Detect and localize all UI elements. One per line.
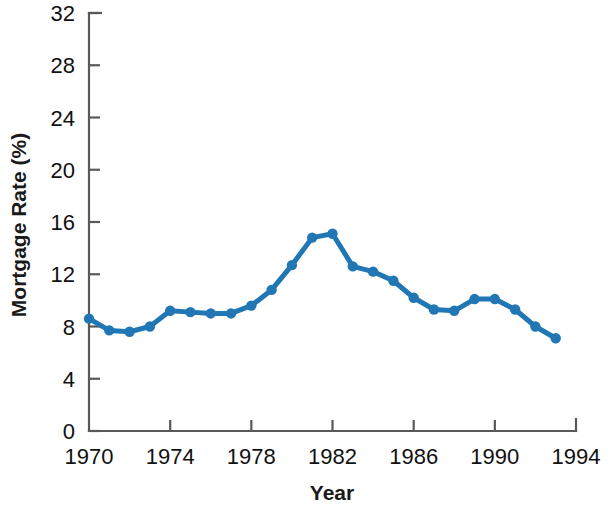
chart-canvas: Mortgage Rate (%) Year 048121620242832 1… <box>0 0 611 514</box>
data-point-marker <box>104 325 114 335</box>
x-tick-label: 1970 <box>65 444 114 469</box>
data-point-marker <box>490 294 500 304</box>
axes <box>89 13 576 431</box>
data-point-marker <box>206 308 216 318</box>
data-point-marker <box>165 306 175 316</box>
x-tick-label: 1982 <box>308 444 357 469</box>
y-tick-label: 32 <box>51 1 75 26</box>
data-point-marker <box>530 321 540 331</box>
mortgage-rate-line-chart: Mortgage Rate (%) Year 048121620242832 1… <box>0 0 611 514</box>
data-point-marker <box>327 229 337 239</box>
data-point-marker <box>429 304 439 314</box>
data-point-marker <box>510 304 520 314</box>
x-tick-label: 1974 <box>146 444 195 469</box>
series-group <box>84 229 561 344</box>
y-tick-label: 0 <box>63 419 75 444</box>
x-axis-label: Year <box>310 481 354 504</box>
y-tick-label: 8 <box>63 315 75 340</box>
series-line-mortgage-rate <box>89 234 556 339</box>
data-point-marker <box>388 276 398 286</box>
data-point-marker <box>287 260 297 270</box>
data-point-marker <box>551 333 561 343</box>
data-point-marker <box>145 321 155 331</box>
data-point-marker <box>185 307 195 317</box>
y-tick-label: 12 <box>51 262 75 287</box>
data-point-marker <box>246 300 256 310</box>
data-point-marker <box>408 293 418 303</box>
x-tick-label: 1990 <box>470 444 519 469</box>
y-tick-label: 16 <box>51 210 75 235</box>
y-tick-label: 4 <box>63 367 75 392</box>
data-point-marker <box>348 261 358 271</box>
data-point-marker <box>266 285 276 295</box>
y-tick-label: 20 <box>51 158 75 183</box>
data-point-marker <box>469 294 479 304</box>
data-point-marker <box>226 308 236 318</box>
x-tick-group: 1970197419781982198619901994 <box>65 420 601 469</box>
x-tick-label: 1978 <box>227 444 276 469</box>
y-axis-label-text: Mortgage Rate (%) <box>7 133 30 317</box>
data-point-marker <box>307 232 317 242</box>
y-tick-group: 048121620242832 <box>51 1 100 444</box>
data-point-marker <box>449 306 459 316</box>
data-point-marker <box>368 266 378 276</box>
data-point-marker <box>84 313 94 323</box>
y-tick-label: 28 <box>51 53 75 78</box>
y-axis-label: Mortgage Rate (%) <box>7 133 30 317</box>
y-tick-label: 24 <box>51 106 75 131</box>
data-point-marker <box>124 327 134 337</box>
x-axis-label-text: Year <box>310 481 354 504</box>
x-tick-label: 1986 <box>389 444 438 469</box>
x-tick-label: 1994 <box>552 444 601 469</box>
